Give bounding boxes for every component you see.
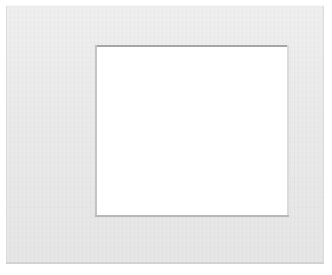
figure-top-edge — [6, 5, 324, 6]
plot-border-left — [95, 45, 97, 217]
figure-bottom-edge — [6, 262, 324, 264]
figure-container — [0, 0, 332, 275]
plot-area — [97, 47, 287, 215]
plot-border-right — [287, 45, 289, 217]
plot-border-bottom — [95, 215, 289, 217]
